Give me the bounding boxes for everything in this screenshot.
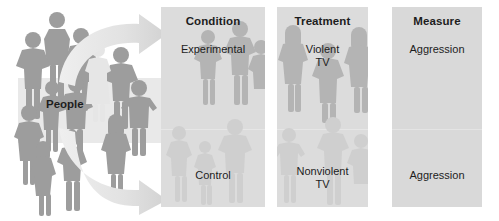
condition-upper-label: Experimental [161, 43, 265, 56]
panel-measure: Measure Aggression Aggression [392, 7, 482, 207]
diagram-canvas: People [0, 0, 499, 221]
panel-divider [392, 129, 482, 130]
silhouette-figure [194, 30, 222, 105]
condition-lower-label: Control [161, 169, 265, 182]
silhouette-figure [218, 119, 252, 203]
panel-treatment: Treatment Violent TV Nonviolent TV [277, 7, 368, 207]
silhouette-figure [344, 27, 368, 113]
treatment-upper-label: Violent TV [277, 43, 368, 69]
crowd-silhouettes [0, 0, 165, 221]
panel-measure-title: Measure [392, 15, 482, 27]
panel-condition: Condition Experimental Control [161, 7, 265, 207]
treatment-lower-label: Nonviolent TV [277, 165, 368, 191]
crowd-label: People [46, 98, 84, 110]
silhouette-figure [317, 117, 349, 205]
silhouette-figure [166, 126, 192, 202]
measure-upper-label: Aggression [392, 43, 482, 56]
panel-condition-title: Condition [161, 15, 265, 27]
measure-lower-label: Aggression [392, 169, 482, 182]
panel-treatment-title: Treatment [277, 15, 368, 27]
